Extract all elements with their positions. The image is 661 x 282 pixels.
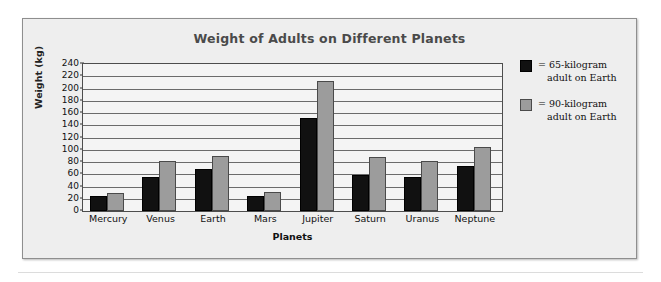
x-axis-title: Planets bbox=[82, 231, 503, 242]
bar[interactable] bbox=[107, 193, 124, 211]
bar-group bbox=[293, 64, 345, 211]
legend-item[interactable]: = 65-kilogramadult on Earth bbox=[520, 59, 650, 85]
bar[interactable] bbox=[212, 156, 229, 211]
bars-layer bbox=[83, 64, 502, 211]
bar[interactable] bbox=[317, 81, 334, 211]
x-tick-label: Saturn bbox=[354, 213, 385, 224]
x-axis-tick-labels: MercuryVenusEarthMarsJupiterSaturnUranus… bbox=[82, 213, 503, 229]
bar-group bbox=[450, 64, 502, 211]
y-tick-label: 160 bbox=[62, 107, 79, 117]
y-tick-label: 60 bbox=[68, 168, 79, 178]
bar[interactable] bbox=[300, 118, 317, 211]
y-axis-title: Weight (kg) bbox=[33, 46, 44, 109]
x-tick-label: Venus bbox=[146, 213, 175, 224]
y-tick-label: 240 bbox=[62, 58, 79, 68]
bar[interactable] bbox=[159, 161, 176, 211]
y-tick-label: 0 bbox=[73, 205, 79, 215]
chart-title: Weight of Adults on Different Planets bbox=[23, 31, 636, 46]
bar-group bbox=[345, 64, 397, 211]
bar-group bbox=[83, 64, 135, 211]
bar-group bbox=[397, 64, 449, 211]
y-tick-label: 120 bbox=[62, 132, 79, 142]
x-tick-label: Mercury bbox=[89, 213, 128, 224]
bar[interactable] bbox=[404, 177, 421, 211]
bar-group bbox=[240, 64, 292, 211]
x-tick-label: Earth bbox=[200, 213, 225, 224]
x-tick-label: Neptune bbox=[455, 213, 496, 224]
legend-swatch-icon bbox=[520, 60, 532, 72]
bar[interactable] bbox=[195, 169, 212, 211]
y-tick-label: 40 bbox=[68, 181, 79, 191]
y-tick-label: 80 bbox=[68, 156, 79, 166]
y-tick-label: 20 bbox=[68, 193, 79, 203]
bar[interactable] bbox=[90, 196, 107, 211]
chart-legend: = 65-kilogramadult on Earth= 90-kilogram… bbox=[520, 59, 650, 137]
x-tick-label: Jupiter bbox=[302, 213, 333, 224]
y-tick-label: 100 bbox=[62, 144, 79, 154]
x-tick-label: Mars bbox=[254, 213, 277, 224]
y-tick-label: 140 bbox=[62, 119, 79, 129]
bar-group bbox=[135, 64, 187, 211]
y-tick-label: 180 bbox=[62, 95, 79, 105]
page-divider-rule bbox=[18, 272, 643, 273]
legend-label: = 90-kilogramadult on Earth bbox=[538, 98, 650, 123]
bar[interactable] bbox=[369, 157, 386, 211]
y-tick-label: 220 bbox=[62, 70, 79, 80]
bar[interactable] bbox=[142, 177, 159, 211]
legend-label-line2: adult on Earth bbox=[547, 111, 650, 124]
legend-label: = 65-kilogramadult on Earth bbox=[538, 59, 650, 84]
y-tick-label: 200 bbox=[62, 83, 79, 93]
y-axis-tick-labels: 020406080100120140160180200220240 bbox=[49, 55, 79, 210]
chart-screenshot: Weight of Adults on Different Planets We… bbox=[0, 0, 661, 282]
plot-area bbox=[82, 63, 503, 212]
bar[interactable] bbox=[421, 161, 438, 211]
legend-swatch-icon bbox=[520, 99, 532, 111]
legend-label-line1: = 90-kilogram bbox=[538, 98, 607, 109]
bar-group bbox=[188, 64, 240, 211]
legend-label-line2: adult on Earth bbox=[547, 72, 650, 85]
bar[interactable] bbox=[264, 192, 281, 211]
legend-item[interactable]: = 90-kilogramadult on Earth bbox=[520, 98, 650, 124]
bar[interactable] bbox=[474, 147, 491, 211]
chart-panel: Weight of Adults on Different Planets We… bbox=[22, 18, 637, 259]
legend-label-line1: = 65-kilogram bbox=[538, 59, 607, 70]
bar[interactable] bbox=[352, 175, 369, 211]
x-tick-label: Uranus bbox=[406, 213, 440, 224]
bar[interactable] bbox=[247, 196, 264, 211]
bar[interactable] bbox=[457, 166, 474, 211]
